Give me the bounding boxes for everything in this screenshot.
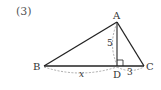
- measure-label-BD: x: [79, 69, 84, 79]
- right-angle-marker: [117, 60, 123, 66]
- dashed-arc-AD: [113, 23, 118, 65]
- vertex-label-D: D: [113, 69, 121, 80]
- vertex-label-A: A: [112, 10, 121, 21]
- side-AC: [117, 22, 144, 66]
- triangle-figure: A B C D 5 x 3: [0, 0, 161, 90]
- vertex-label-C: C: [146, 61, 154, 72]
- measure-label-DC: 3: [127, 67, 133, 77]
- measure-label-AD: 5: [107, 38, 113, 48]
- vertex-label-B: B: [33, 61, 40, 72]
